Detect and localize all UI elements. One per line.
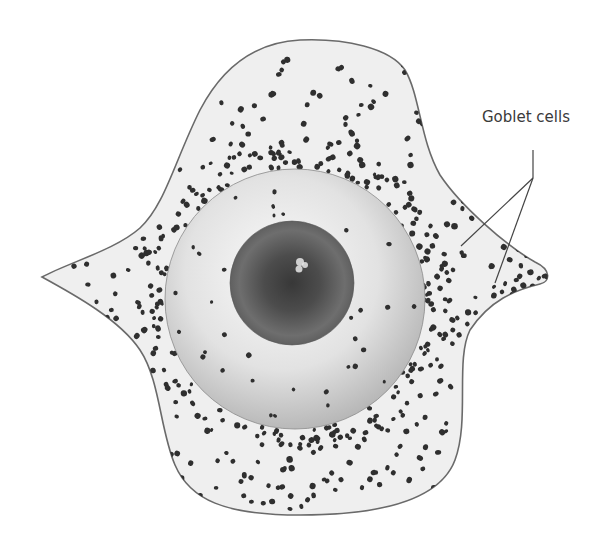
- goblet-cells-label: Goblet cells: [482, 108, 570, 126]
- conjunctiva-diagram: Goblet cells: [0, 0, 604, 545]
- iris: [230, 221, 354, 345]
- diagram-canvas: [0, 0, 604, 545]
